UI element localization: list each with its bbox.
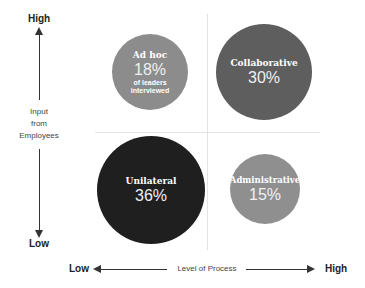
y-axis-high-label: High (28, 13, 50, 24)
x-axis-title: Level of Process (174, 263, 240, 275)
bubble-ad-hoc-subtitle-2: interviewed (131, 87, 170, 95)
quadrant-divider-horizontal (95, 132, 320, 133)
bubble-administrative-name: Administrative (230, 175, 300, 186)
bubble-ad-hoc: Ad hoc 18% of leaders interviewed (112, 34, 188, 110)
y-axis-title-line3: Employees (14, 130, 64, 142)
bubble-administrative: Administrative 15% (230, 154, 300, 224)
x-axis-left-line (100, 269, 167, 270)
bubble-unilateral-percent: 36% (135, 187, 167, 205)
y-axis-title: Input from Employees (14, 106, 64, 142)
x-axis-low-label: Low (69, 263, 89, 274)
x-axis-right-line (246, 269, 308, 270)
y-axis-title-line2: from (14, 118, 64, 130)
y-axis-upper-line (39, 34, 40, 100)
bubble-unilateral: Unilateral 36% (97, 136, 205, 244)
bubble-administrative-percent: 15% (249, 186, 281, 204)
bubble-ad-hoc-name: Ad hoc (133, 50, 167, 61)
y-axis-title-line1: Input (14, 106, 64, 118)
bubble-collaborative-name: Collaborative (230, 58, 297, 69)
bubble-unilateral-name: Unilateral (126, 176, 177, 187)
bubble-collaborative: Collaborative 30% (216, 24, 312, 120)
arrow-down-icon (35, 230, 43, 238)
x-axis-high-label: High (325, 263, 347, 274)
arrow-right-icon (307, 265, 315, 273)
bubble-ad-hoc-subtitle-1: of leaders (133, 79, 166, 87)
bubble-collaborative-percent: 30% (248, 69, 280, 87)
y-axis-low-label: Low (29, 238, 49, 249)
bubble-ad-hoc-percent: 18% (134, 61, 166, 79)
y-axis-lower-line (39, 149, 40, 231)
